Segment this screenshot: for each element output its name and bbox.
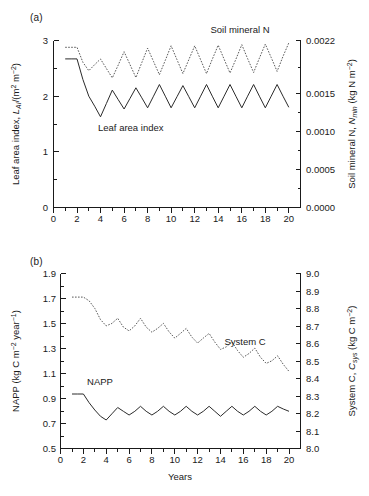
panel-a-left-axis-title: Leaf area index, LAI/(m2 m−2) bbox=[10, 63, 22, 185]
tick-label: 0.0015 bbox=[306, 88, 335, 99]
panel-b-x-axis-title: Years bbox=[168, 471, 192, 482]
panel-a: (a) bbox=[0, 0, 369, 248]
panel-a-solid-series-label: Leaf area index bbox=[98, 122, 164, 133]
panel-b-x-ticks bbox=[61, 449, 290, 454]
panel-b: (b) bbox=[0, 248, 369, 496]
tick-label: 1.3 bbox=[43, 343, 56, 354]
tick-label: 0.7 bbox=[43, 418, 56, 429]
panel-b-left-axis-title: NAPP (kg C m−2 year−1) bbox=[10, 310, 21, 412]
panel-a-x-ticks bbox=[54, 208, 289, 213]
tick-label: 9.0 bbox=[306, 268, 319, 279]
tick-label: 0.5 bbox=[43, 443, 56, 454]
figure-container: (a) bbox=[0, 0, 369, 496]
tick-label: 4 bbox=[104, 454, 109, 465]
tick-label: 14 bbox=[215, 454, 226, 465]
tick-label: 8.1 bbox=[306, 426, 319, 437]
tick-label: 8.4 bbox=[306, 373, 319, 384]
tick-label: 10 bbox=[170, 454, 181, 465]
tick-label: 2 bbox=[43, 91, 48, 102]
tick-label: 8 bbox=[145, 213, 150, 224]
tick-label: 2 bbox=[81, 454, 86, 465]
panel-a-right-axis-title: Soil mineral N, Nmin (kg N m−2) bbox=[346, 59, 358, 189]
tick-label: 2 bbox=[74, 213, 79, 224]
tick-label: 14 bbox=[213, 213, 224, 224]
tick-label: 20 bbox=[284, 454, 295, 465]
tick-label: 0.0000 bbox=[306, 202, 335, 213]
tick-label: 0 bbox=[58, 454, 63, 465]
panel-b-left-ticks bbox=[61, 274, 66, 449]
panel-a-series-soil-mineral-n bbox=[65, 43, 289, 78]
tick-label: 0.0022 bbox=[306, 35, 335, 46]
panel-a-left-tick-labels: 0 1 2 3 bbox=[43, 35, 48, 213]
svg-text:Leaf area index, LAI/(m2 m−2): Leaf area index, LAI/(m2 m−2) bbox=[10, 63, 22, 185]
panel-b-solid-series-label: NAPP bbox=[87, 376, 113, 387]
tick-label: 12 bbox=[192, 454, 203, 465]
tick-label: 12 bbox=[189, 213, 200, 224]
tick-label: 1.9 bbox=[43, 268, 56, 279]
panel-b-plot: 0.5 0.7 0.9 1.1 1.3 1.5 1.7 1.9 8.0 8.1 … bbox=[0, 248, 369, 496]
svg-text:NAPP (kg C m−2 year−1): NAPP (kg C m−2 year−1) bbox=[10, 310, 21, 412]
panel-b-series-system-c bbox=[72, 297, 289, 371]
panel-b-x-tick-labels: 0 2 4 6 8 10 12 14 16 18 20 bbox=[58, 454, 294, 465]
tick-label: 1.5 bbox=[43, 318, 56, 329]
tick-label: 8.0 bbox=[306, 443, 319, 454]
panel-b-series-napp bbox=[72, 394, 289, 420]
tick-label: 20 bbox=[284, 213, 295, 224]
tick-label: 6 bbox=[121, 213, 126, 224]
tick-label: 0.0005 bbox=[306, 164, 335, 175]
tick-label: 8 bbox=[149, 454, 154, 465]
tick-label: 18 bbox=[261, 454, 272, 465]
panel-a-label: (a) bbox=[30, 12, 43, 23]
tick-label: 1.1 bbox=[43, 368, 56, 379]
panel-b-axes bbox=[61, 274, 301, 449]
tick-label: 10 bbox=[166, 213, 177, 224]
tick-label: 6 bbox=[126, 454, 131, 465]
panel-a-left-ticks bbox=[54, 41, 59, 208]
tick-label: 16 bbox=[238, 454, 249, 465]
tick-label: 16 bbox=[237, 213, 248, 224]
tick-label: 8.9 bbox=[306, 286, 319, 297]
panel-b-right-ticks bbox=[296, 274, 301, 449]
tick-label: 8.5 bbox=[306, 356, 319, 367]
panel-b-right-tick-labels: 8.0 8.1 8.2 8.3 8.4 8.5 8.6 8.7 8.8 8.9 … bbox=[306, 268, 319, 454]
tick-label: 8.8 bbox=[306, 303, 319, 314]
tick-label: 8.2 bbox=[306, 408, 319, 419]
panel-a-x-tick-labels: 0 2 4 6 8 10 12 14 16 18 20 bbox=[51, 213, 294, 224]
panel-b-dotted-series-label: System C bbox=[224, 336, 265, 347]
panel-a-right-tick-labels: 0.0000 0.0005 0.0010 0.0015 0.0022 bbox=[306, 35, 335, 213]
svg-text:Soil mineral N, Nmin (kg N m−2: Soil mineral N, Nmin (kg N m−2) bbox=[346, 59, 358, 189]
tick-label: 0.9 bbox=[43, 393, 56, 404]
tick-label: 4 bbox=[98, 213, 103, 224]
tick-label: 0 bbox=[51, 213, 56, 224]
panel-a-axes bbox=[54, 41, 301, 208]
panel-b-left-tick-labels: 0.5 0.7 0.9 1.1 1.3 1.5 1.7 1.9 bbox=[43, 268, 56, 454]
tick-label: 1 bbox=[43, 146, 48, 157]
tick-label: 8.7 bbox=[306, 321, 319, 332]
panel-a-series-leaf-area-index bbox=[65, 59, 289, 117]
panel-b-label: (b) bbox=[30, 256, 43, 267]
panel-a-right-ticks bbox=[296, 41, 301, 208]
svg-text:System C, Csys (kg C m−2): System C, Csys (kg C m−2) bbox=[346, 306, 359, 417]
tick-label: 18 bbox=[260, 213, 271, 224]
panel-a-dotted-series-label: Soil mineral N bbox=[210, 24, 269, 35]
tick-label: 8.3 bbox=[306, 391, 319, 402]
tick-label: 1.7 bbox=[43, 293, 56, 304]
tick-label: 0 bbox=[43, 202, 48, 213]
panel-b-right-axis-title: System C, Csys (kg C m−2) bbox=[346, 306, 359, 417]
tick-label: 3 bbox=[43, 35, 48, 46]
panel-a-plot: 0 1 2 3 0.0000 0.0005 0.0010 0.0015 0.00… bbox=[0, 0, 369, 248]
tick-label: 0.0010 bbox=[306, 126, 335, 137]
tick-label: 8.6 bbox=[306, 338, 319, 349]
